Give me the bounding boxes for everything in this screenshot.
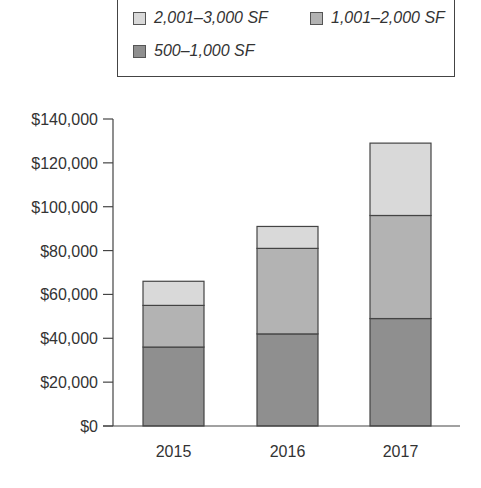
- bar-segment-2015-2: [143, 281, 204, 305]
- y-tick-label: $20,000: [40, 374, 98, 391]
- y-tick-label: $120,000: [31, 155, 98, 172]
- x-tick-label: 2016: [270, 443, 306, 460]
- y-tick-label: $100,000: [31, 199, 98, 216]
- y-axis: $0$20,000$40,000$60,000$80,000$100,000$1…: [31, 111, 113, 435]
- y-tick-label: $0: [80, 418, 98, 435]
- x-tick-label: 2017: [383, 443, 419, 460]
- bar-segment-2015-1: [143, 305, 204, 347]
- x-axis: 201520162017: [103, 426, 460, 460]
- y-tick-label: $40,000: [40, 330, 98, 347]
- y-tick-label: $60,000: [40, 286, 98, 303]
- stacked-bar-chart: $0$20,000$40,000$60,000$80,000$100,000$1…: [0, 0, 481, 488]
- bar-segment-2017-2: [370, 143, 431, 215]
- x-tick-label: 2015: [156, 443, 192, 460]
- bar-segment-2016-2: [257, 226, 318, 248]
- bar-segment-2016-0: [257, 334, 318, 426]
- bar-segment-2017-0: [370, 319, 431, 426]
- bars: [143, 143, 431, 426]
- bar-segment-2015-0: [143, 347, 204, 426]
- bar-segment-2016-1: [257, 248, 318, 334]
- bar-segment-2017-1: [370, 215, 431, 318]
- y-tick-label: $140,000: [31, 111, 98, 128]
- y-tick-label: $80,000: [40, 243, 98, 260]
